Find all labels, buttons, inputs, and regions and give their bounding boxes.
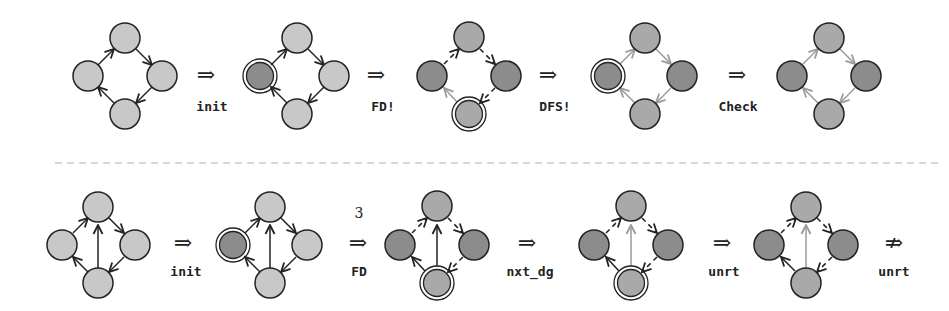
- label-bottom-2: FD: [351, 264, 367, 279]
- label-bottom-5: unrt: [878, 264, 909, 279]
- arrow-top-1: ⇒: [197, 62, 215, 87]
- graph-bottom-1: [47, 192, 150, 298]
- not-arrow-bottom-5: ⇏: [885, 230, 903, 255]
- graph-bottom-3: [385, 191, 489, 300]
- label-top-3: DFS!: [539, 99, 570, 114]
- label-top-4: Check: [718, 99, 757, 114]
- arrow-top-2: ⇒: [367, 62, 385, 87]
- label-bottom-3: nxt_dg: [507, 264, 554, 280]
- graph-bottom-4: [579, 191, 683, 300]
- label-bottom-4: unrt: [708, 264, 739, 279]
- graph-top-5: [777, 23, 881, 129]
- graph-top-2: [243, 23, 349, 129]
- arrow-bottom-1: ⇒: [174, 230, 192, 255]
- arrow-top-4: ⇒: [728, 62, 746, 87]
- diagram-canvas: ⇒ init ⇒ FD! ⇒ DFS! ⇒: [0, 0, 949, 311]
- label-bottom-1: init: [170, 264, 201, 279]
- label-top-2: FD!: [371, 99, 394, 114]
- arrow-bottom-2: ⇒: [349, 230, 367, 255]
- graph-top-1: [73, 23, 177, 129]
- superscript-bottom-2: 3: [355, 205, 364, 221]
- graph-top-3: [417, 22, 521, 131]
- graph-bottom-5: [754, 192, 858, 298]
- graph-top-4: [591, 23, 697, 129]
- graph-bottom-2: [216, 192, 322, 298]
- arrow-bottom-4: ⇒: [713, 230, 731, 255]
- label-top-1: init: [196, 99, 227, 114]
- arrow-top-3: ⇒: [539, 62, 557, 87]
- arrow-bottom-3: ⇒: [518, 230, 536, 255]
